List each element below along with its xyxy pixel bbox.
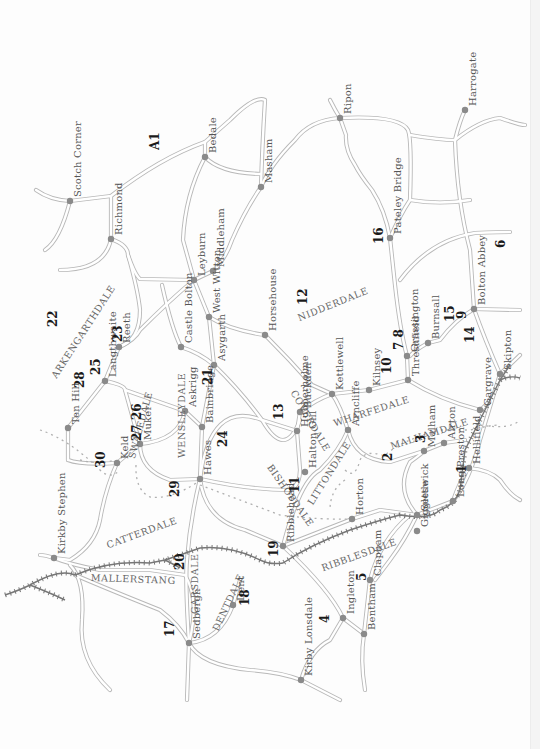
town-marker-icon bbox=[186, 640, 192, 646]
town-marker-icon bbox=[206, 314, 212, 320]
town-label: Scotch Corner bbox=[72, 121, 83, 197]
town-label: Gargrave bbox=[482, 357, 493, 406]
walk-number: 9 bbox=[455, 311, 469, 319]
town-label: Masham bbox=[263, 139, 274, 183]
town-marker-icon bbox=[298, 677, 304, 683]
town-label: Threshfield bbox=[410, 316, 421, 376]
town-marker-icon bbox=[462, 107, 468, 113]
town-marker-icon bbox=[414, 528, 420, 534]
town-marker-icon bbox=[202, 154, 208, 160]
town-label: Leyburn bbox=[196, 232, 207, 276]
town-marker-icon bbox=[405, 377, 411, 383]
town-marker-icon bbox=[262, 332, 268, 338]
walk-number: A1 bbox=[148, 132, 162, 150]
walk-number: 28 bbox=[73, 371, 87, 388]
town-label: Bentham bbox=[366, 583, 377, 630]
town-marker-icon bbox=[102, 378, 108, 384]
walk-number: 2 bbox=[381, 453, 395, 461]
town-marker-icon bbox=[294, 428, 300, 434]
town-label: Kirby Lonsdale bbox=[303, 597, 314, 676]
walk-number: 16 bbox=[372, 227, 386, 244]
town-marker-icon bbox=[329, 391, 335, 397]
town-marker-icon bbox=[302, 469, 308, 475]
town-label: Ripon bbox=[342, 83, 353, 114]
town-label: Bedale bbox=[207, 117, 218, 153]
town-marker-icon bbox=[387, 235, 393, 241]
town-marker-icon bbox=[67, 198, 73, 204]
town-marker-icon bbox=[108, 236, 114, 242]
walk-number: 12 bbox=[296, 288, 310, 305]
town-marker-icon bbox=[65, 425, 71, 431]
walk-number: 22 bbox=[46, 310, 60, 327]
town-marker-icon bbox=[421, 448, 427, 454]
walk-number: 11 bbox=[288, 476, 302, 493]
roads-outline bbox=[36, 99, 525, 700]
walk-number: 20 bbox=[173, 553, 187, 570]
walk-number: 4 bbox=[318, 615, 332, 623]
town-marker-icon bbox=[114, 460, 120, 466]
town-label: Kettlewell bbox=[334, 337, 345, 390]
town-label: Richmond bbox=[113, 182, 124, 235]
walk-number: 14 bbox=[463, 326, 477, 343]
town-marker-icon bbox=[178, 344, 184, 350]
town-label: Long Preston bbox=[455, 427, 466, 497]
walk-number: 13 bbox=[272, 403, 286, 420]
town-marker-icon bbox=[197, 476, 203, 482]
town-label: Horsehouse bbox=[267, 268, 278, 331]
town-label: Ten Hill bbox=[70, 383, 81, 424]
town-label: Castle Bolton bbox=[183, 272, 194, 343]
town-marker-icon bbox=[450, 498, 456, 504]
walk-number: 19 bbox=[267, 540, 281, 557]
town-marker-icon bbox=[441, 440, 447, 446]
town-marker-icon bbox=[425, 340, 431, 346]
walk-number: 7 8 bbox=[392, 329, 406, 350]
town-label: Skipton bbox=[502, 330, 513, 370]
walk-number: 1 bbox=[455, 465, 469, 473]
town-label: Horton bbox=[354, 478, 365, 515]
town-label: West Witton bbox=[211, 249, 222, 313]
walk-number: 25 bbox=[89, 358, 103, 375]
town-marker-icon bbox=[258, 184, 264, 190]
town-label: Kirkby Stephen bbox=[56, 472, 67, 554]
town-label: Bolton Abbey bbox=[476, 235, 487, 305]
walk-number: 21 bbox=[201, 368, 215, 385]
walk-number: 3 bbox=[414, 435, 428, 443]
town-marker-icon bbox=[497, 371, 503, 377]
walk-number: 23 bbox=[111, 325, 125, 342]
town-marker-icon bbox=[51, 555, 57, 561]
town-label: Harrogate bbox=[467, 52, 478, 106]
town-marker-icon bbox=[340, 615, 346, 621]
town-label: Hellifield bbox=[471, 415, 482, 464]
walk-number: 5 bbox=[355, 573, 369, 581]
dale-label: WENSLEYDALE bbox=[176, 373, 187, 458]
town-label: Pateley Bridge bbox=[392, 157, 403, 234]
walk-number: 6 bbox=[494, 240, 508, 248]
walk-number: 30 bbox=[94, 451, 108, 468]
walk-number: 24 bbox=[216, 430, 230, 447]
town-marker-icon bbox=[477, 407, 483, 413]
walk-number: 29 bbox=[168, 480, 182, 497]
town-label: Burnsall bbox=[430, 295, 441, 339]
walk-number: 10 bbox=[380, 357, 394, 374]
town-marker-icon bbox=[471, 306, 477, 312]
town-label: Askrigg bbox=[187, 366, 198, 407]
town-label: Giggleswick bbox=[419, 463, 430, 527]
dale-label: GARSDALE bbox=[189, 553, 200, 614]
town-label: Langthwaite bbox=[107, 311, 118, 377]
walk-number: 18 bbox=[238, 589, 252, 606]
town-marker-icon bbox=[366, 387, 372, 393]
walk-number: 27 26 bbox=[130, 403, 144, 441]
town-label: Asygarth bbox=[216, 314, 227, 361]
walk-number: 17 bbox=[163, 620, 177, 637]
town-label: Hawes bbox=[202, 440, 213, 475]
town-marker-icon bbox=[361, 631, 367, 637]
town-marker-icon bbox=[337, 115, 343, 121]
town-marker-icon bbox=[199, 424, 205, 430]
town-marker-icon bbox=[345, 427, 351, 433]
town-marker-icon bbox=[349, 516, 355, 522]
